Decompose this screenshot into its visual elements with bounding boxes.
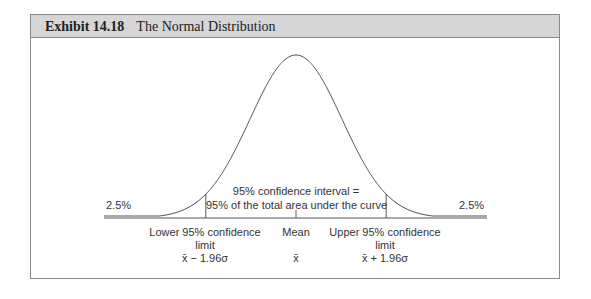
left-tail-label: 2.5%	[106, 199, 131, 212]
mean-formula: x̄	[266, 252, 326, 265]
mean-label: Mean	[266, 226, 326, 239]
lower-limit-label: Lower 95% confidence	[145, 226, 265, 239]
right-tail-label: 2.5%	[459, 199, 484, 212]
lower-limit-formula: x̄ − 1.96σ	[145, 252, 265, 265]
upper-limit-label: Upper 95% confidence	[325, 226, 445, 239]
ci-label-line2: 95% of the total area under the curve	[206, 199, 386, 212]
lower-limit-label-line2: limit	[145, 239, 265, 252]
ci-label-line1: 95% confidence interval =	[206, 185, 386, 198]
upper-limit-label-line2: limit	[325, 239, 445, 252]
upper-limit-formula: x̄ + 1.96σ	[325, 252, 445, 265]
